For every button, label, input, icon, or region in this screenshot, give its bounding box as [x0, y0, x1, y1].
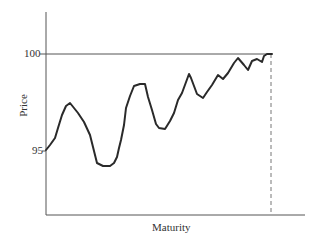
y-tick-label-95: 95	[32, 145, 43, 156]
price-maturity-chart: 100 95 Price Maturity	[0, 0, 319, 240]
y-axis-label: Price	[18, 91, 29, 121]
chart-canvas	[0, 0, 319, 240]
x-axis-label: Maturity	[152, 222, 191, 233]
y-tick-label-100: 100	[24, 48, 41, 59]
price-line	[46, 54, 272, 166]
